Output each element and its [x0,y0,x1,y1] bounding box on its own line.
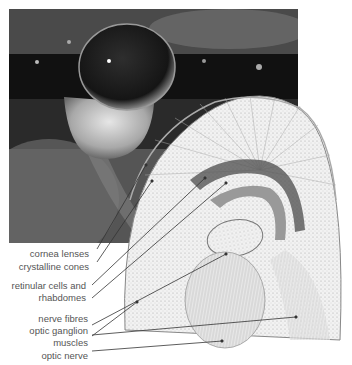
nerve-mass [185,252,265,348]
label-nerve-fibres: nerve fibres [38,313,88,324]
label-muscles: muscles [53,337,88,348]
label-rhabdomes-line2: rhabdomes [38,292,86,303]
label-retinular-cells-line1: retinular cells and [12,280,86,291]
eye-cross-section-diagram [0,0,352,365]
label-optic-nerve: optic nerve [42,350,88,361]
label-optic-ganglion: optic ganglion [29,325,88,336]
label-cornea-lenses: cornea lenses [30,248,89,259]
label-crystalline-cones: crystalline cones [19,261,89,272]
